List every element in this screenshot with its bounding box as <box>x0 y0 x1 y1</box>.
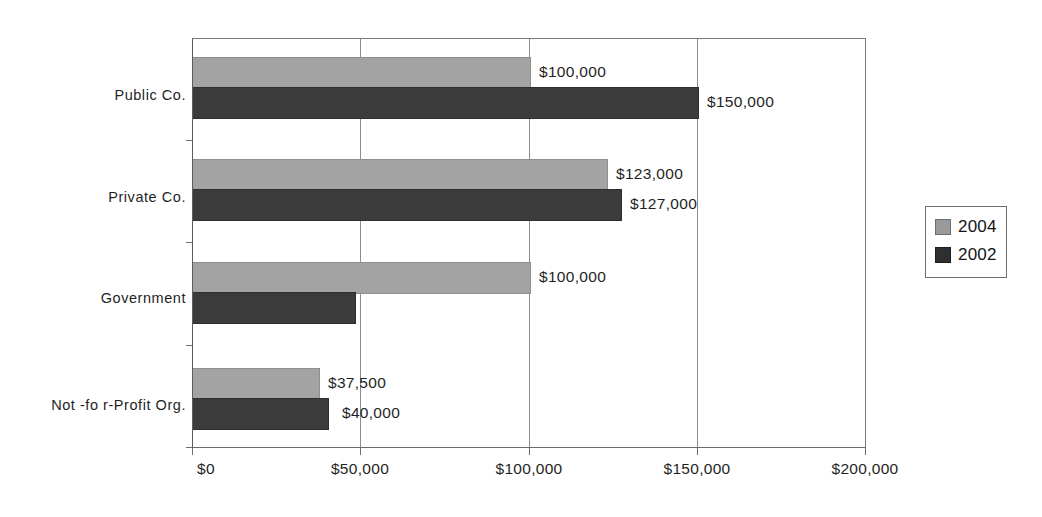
y-category-label-2: Government <box>101 291 186 306</box>
x-tick-2 <box>529 448 530 455</box>
bar-not-for-profit-org-2004 <box>193 368 320 400</box>
legend-swatch-icon-2004 <box>935 219 951 235</box>
plot-area: $100,000 $150,000 $123,000 $127,000 $100… <box>192 38 866 448</box>
legend-label-2002: 2002 <box>958 246 997 263</box>
bar-value-not-for-profit-org-2004: $37,500 <box>328 375 386 391</box>
x-tick-label-3: $150,000 <box>663 461 730 477</box>
x-tick-3 <box>697 448 698 455</box>
legend-label-2004: 2004 <box>958 218 997 235</box>
bar-not-for-profit-org-2002 <box>193 398 329 430</box>
bar-government-2002 <box>193 292 356 324</box>
bar-chart: $0 $50,000 $100,000 $150,000 $200,000 Pu… <box>0 0 1042 517</box>
bar-public-co-2004 <box>193 57 531 89</box>
bar-value-private-co-2004: $123,000 <box>616 166 683 182</box>
x-tick-0 <box>192 448 193 455</box>
bar-value-not-for-profit-org-2002: $40,000 <box>342 405 400 421</box>
x-tick-label-2: $100,000 <box>495 461 562 477</box>
x-tick-4 <box>865 448 866 455</box>
legend-item-2002: 2002 <box>935 246 997 263</box>
bar-public-co-2002 <box>193 87 699 119</box>
legend: 2004 2002 <box>925 206 1007 278</box>
bar-value-public-co-2002: $150,000 <box>707 94 774 110</box>
x-tick-1 <box>360 448 361 455</box>
bar-private-co-2004 <box>193 159 608 191</box>
y-category-label-1: Private Co. <box>108 190 186 205</box>
bar-value-public-co-2004: $100,000 <box>539 64 606 80</box>
legend-swatch-icon-2002 <box>935 247 951 263</box>
bar-private-co-2002 <box>193 189 622 221</box>
bar-government-2004 <box>193 262 531 294</box>
y-category-label-0: Public Co. <box>114 88 186 103</box>
bar-value-private-co-2002: $127,000 <box>630 196 697 212</box>
x-tick-label-4: $200,000 <box>831 461 898 477</box>
x-tick-label-0: $0 <box>197 461 215 477</box>
bar-value-government-2004: $100,000 <box>539 269 606 285</box>
x-tick-label-1: $50,000 <box>331 461 389 477</box>
legend-item-2004: 2004 <box>935 218 997 235</box>
y-category-label-3: Not -fo r-Profit Org. <box>51 398 186 413</box>
